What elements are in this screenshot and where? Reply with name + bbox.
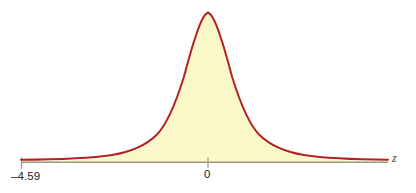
axis-tick-label-left: –4.59 [11,170,40,182]
normal-curve-figure: –4.59 0 z [0,0,416,193]
distribution-plot [0,0,416,193]
normal-curve-fill [21,14,388,162]
axis-variable-label: z [392,151,397,166]
axis-tick-label-center: 0 [204,168,211,180]
